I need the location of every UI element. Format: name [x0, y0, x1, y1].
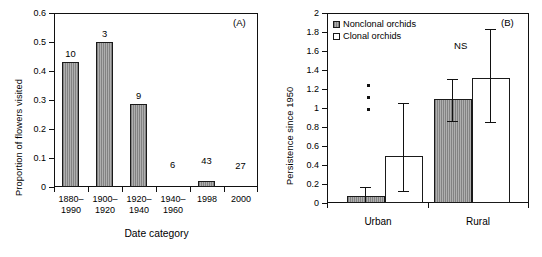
panel-b-ytick-label: 0 [287, 198, 319, 208]
figure-two-panel-bar-charts: Proportion of flowers visited 0.6 0.5 0.… [0, 0, 542, 257]
panel-a-xtick-mark [54, 187, 55, 192]
panel-b-xtick-mark [327, 203, 328, 208]
panel-a-ytick-label: 0.6 [18, 8, 46, 18]
legend-swatch-clonal-icon [333, 33, 340, 40]
xcat-line-2: 1960 [153, 205, 193, 216]
errorbar-rural-nonclonal [452, 79, 453, 122]
panel-a-ytick-label: 0 [18, 182, 46, 192]
errorbar-cap-lower-rural-clonal [485, 122, 496, 123]
panel-a-xcat-2000: 2000 [221, 194, 261, 205]
bar-value-label: 10 [53, 48, 88, 59]
panel-a-ytick-label: 0.2 [18, 124, 46, 134]
panel-b-ytick-label: 0.4 [287, 160, 319, 170]
legend-swatch-nonclonal-icon [333, 21, 340, 28]
panel-a-x-axis-label: Date category [74, 228, 239, 239]
significance-ns-label: NS [454, 40, 467, 51]
errorbar-cap-upper-rural-clonal [485, 29, 496, 30]
bar-1998 [198, 181, 215, 187]
panel-b-ytick-label: 0.2 [287, 179, 319, 189]
bar-1880-1990 [62, 62, 79, 187]
panel-a-xtick-mark [190, 187, 191, 192]
panel-a-xtick-mark [156, 187, 157, 192]
panel-b-ytick-label: 1.2 [287, 84, 319, 94]
panel-a-tag: (A) [233, 17, 246, 28]
legend-item-nonclonal: Nonclonal orchids [333, 18, 416, 30]
errorbar-cap-lower-urban-clonal [398, 191, 409, 192]
panel-b-xcat-rural: Rural [455, 217, 501, 228]
legend-label-clonal: Clonal orchids [343, 30, 401, 42]
legend-label-nonclonal: Nonclonal orchids [343, 18, 416, 30]
significance-asterisk-icon [367, 108, 370, 111]
panel-b-ytick-label: 1.4 [287, 65, 319, 75]
panel-b-xtick-mark [428, 203, 429, 208]
panel-b-legend: Nonclonal orchids Clonal orchids [333, 18, 416, 43]
significance-asterisk-icon [367, 84, 370, 87]
xcat-line-1: 2000 [221, 194, 261, 205]
panel-a-xtick-mark [224, 187, 225, 192]
panel-b-xcat-urban: Urban [355, 217, 401, 228]
errorbar-rural-clonal [490, 29, 491, 122]
errorbar-cap-upper-rural-nonclonal [447, 79, 458, 80]
errorbar-cap-upper-urban-clonal [398, 103, 409, 104]
panel-b-ytick-label: 1.6 [287, 46, 319, 56]
panel-b-ytick-label: 0.6 [287, 141, 319, 151]
bar-value-label: 9 [121, 90, 156, 101]
panel-b: Persistence since 1950 2 1.8 1.6 1.4 1.2… [271, 0, 542, 257]
errorbar-urban-clonal [403, 103, 404, 192]
bar-value-label: 43 [189, 155, 224, 166]
bar-value-label: 3 [87, 28, 122, 39]
panel-b-ytick-label: 1.8 [287, 27, 319, 37]
panel-a: Proportion of flowers visited 0.6 0.5 0.… [0, 0, 271, 257]
panel-b-ytick-label: 1 [287, 103, 319, 113]
panel-a-ytick-label: 0.4 [18, 66, 46, 76]
errorbar-cap-lower-rural-nonclonal [447, 121, 458, 122]
bar-value-label: 6 [155, 159, 190, 170]
panel-a-ytick-label: 0.3 [18, 95, 46, 105]
panel-a-ytick-label: 0.1 [18, 153, 46, 163]
legend-item-clonal: Clonal orchids [333, 30, 416, 42]
bar-1920-1940 [130, 104, 147, 187]
panel-a-xtick-mark [257, 187, 258, 192]
bar-value-label: 27 [223, 160, 258, 171]
significance-asterisk-icon [367, 96, 370, 99]
panel-b-xtick-mark [528, 203, 529, 208]
panel-b-y-axis-label: Persistence since 1950 [285, 87, 295, 185]
errorbar-cap-urban-nonclonal [360, 187, 371, 188]
panel-b-ytick-label: 2 [287, 8, 319, 18]
panel-b-ytick-label: 0.8 [287, 122, 319, 132]
errorbar-urban-nonclonal [365, 187, 366, 203]
panel-a-ytick-label: 0.5 [18, 37, 46, 47]
panel-a-xtick-mark [122, 187, 123, 192]
bar-1900-1920 [96, 42, 113, 187]
panel-b-tag: (B) [501, 17, 514, 28]
panel-a-xtick-mark [88, 187, 89, 192]
